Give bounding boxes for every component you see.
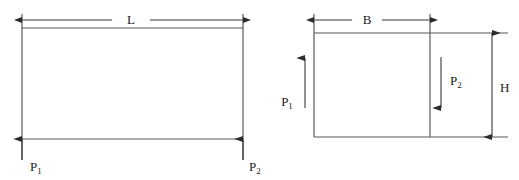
right-reaction-label-base: P — [249, 159, 256, 174]
diagram-canvas: L P1 P2 B H — [0, 0, 519, 180]
panel-cross-section: B H P1 P2 — [281, 12, 509, 137]
engineering-diagram-figure: L P1 P2 B H — [0, 0, 519, 180]
left-reaction-label-base: P — [30, 159, 37, 174]
width-dimension-label: B — [363, 12, 372, 27]
left-reaction-label-subscript: 1 — [37, 166, 42, 176]
section-load-left-label-subscript: 1 — [288, 101, 293, 111]
section-load-inner-label: P2 — [450, 73, 462, 90]
height-dimension-label: H — [500, 80, 509, 95]
left-reaction-label: P1 — [30, 159, 42, 176]
section-load-left-label: P1 — [281, 94, 293, 111]
section-load-left-label-base: P — [281, 94, 288, 109]
right-reaction-label-subscript: 2 — [256, 166, 261, 176]
section-load-inner-label-base: P — [450, 73, 457, 88]
right-reaction-label: P2 — [249, 159, 261, 176]
panel-side-elevation: L P1 P2 — [22, 12, 261, 176]
section-load-inner-label-subscript: 2 — [457, 80, 462, 90]
span-dimension-label: L — [127, 12, 135, 27]
